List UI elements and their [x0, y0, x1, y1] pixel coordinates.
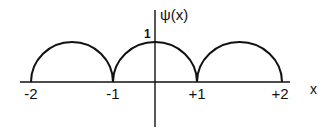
x-tick-label: -2	[24, 85, 37, 102]
x-tick-label: -1	[106, 85, 119, 102]
x-tick-label: +2	[271, 85, 288, 102]
function-label: ψ(x)	[160, 6, 188, 23]
arc-left	[31, 42, 113, 82]
arc-right	[197, 42, 282, 82]
x-tick-label: +1	[188, 85, 205, 102]
x-axis-label: x	[310, 81, 317, 97]
peak-label: 1	[144, 27, 151, 41]
wavefunction-diagram: ψ(x) 1 x -2 -1 +1 +2	[0, 0, 336, 132]
